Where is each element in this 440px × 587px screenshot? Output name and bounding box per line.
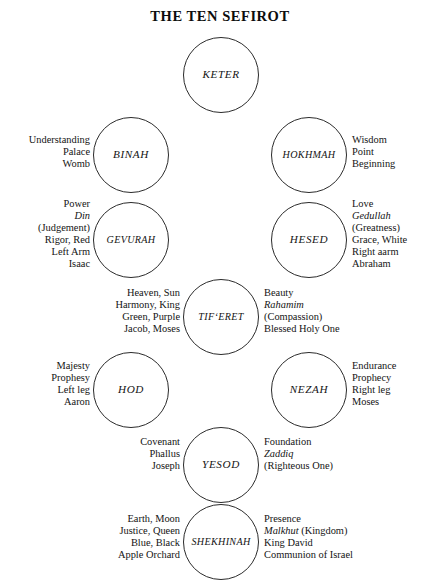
sefirah-hokhmah-label: HOKHMAH <box>283 150 336 160</box>
ten-sefirot-diagram: THE TEN SEFIROT KETER BINAH Understandin… <box>0 0 440 587</box>
sefirah-yesod[interactable]: YESOD <box>183 427 259 503</box>
sefirah-yesod-label: YESOD <box>202 459 240 470</box>
annotation-line: Apple Orchard <box>80 549 180 561</box>
annotation-line: Palace <box>0 146 90 158</box>
annotation-line: Covenant <box>90 436 180 448</box>
annotation-line: Rigor, Red <box>0 234 90 246</box>
annotation-line: Earth, Moon <box>80 513 180 525</box>
annotation-line: Grace, White <box>352 234 440 246</box>
annotation-hod: Majesty Prophesy Left leg Aaron <box>0 360 90 408</box>
annotation-line: (Compassion) <box>264 311 424 323</box>
annotation-line: Left leg <box>0 384 90 396</box>
annotation-line: Isaac <box>0 258 90 270</box>
sefirah-hesed-label: HESED <box>290 234 328 245</box>
annotation-line: King David <box>264 537 434 549</box>
annotation-hokhmah: Wisdom Point Beginning <box>352 134 440 170</box>
page-title: THE TEN SEFIROT <box>0 8 440 25</box>
annotation-gevurah: Power Din (Judgement) Rigor, Red Left Ar… <box>0 198 90 269</box>
annotation-nezah: Endurance Prophecy Right leg Moses <box>352 360 440 408</box>
annotation-line: Point <box>352 146 440 158</box>
sefirah-gevurah[interactable]: GEVURAH <box>93 202 169 278</box>
sefirah-nezah-label: NEZAH <box>290 384 328 395</box>
annotation-line: Prophesy <box>0 372 90 384</box>
annotation-line: Right aarm <box>352 246 440 258</box>
annotation-line: Left Arm <box>0 246 90 258</box>
annotation-line: Jacob, Moses <box>90 323 180 335</box>
sefirah-hesed[interactable]: HESED <box>271 202 347 278</box>
annotation-line: Abraham <box>352 258 440 270</box>
sefirah-hod[interactable]: HOD <box>93 352 169 428</box>
sefirah-hokhmah[interactable]: HOKHMAH <box>271 117 347 193</box>
annotation-line: Beginning <box>352 158 440 170</box>
sefirah-shekhinah-label: SHEKHINAH <box>191 537 250 547</box>
annotation-line: Communion of Israel <box>264 549 434 561</box>
annotation-shekhinah-left: Earth, Moon Justice, Queen Blue, Black A… <box>80 513 180 561</box>
annotation-line: Rahamim <box>264 299 424 311</box>
annotation-tiferet-right: Beauty Rahamim (Compassion) Blessed Holy… <box>264 287 424 335</box>
annotation-line: (Righteous One) <box>264 460 424 472</box>
annotation-line: Beauty <box>264 287 424 299</box>
annotation-line: Understanding <box>0 134 90 146</box>
annotation-binah: Understanding Palace Womb <box>0 134 90 170</box>
annotation-line: Prophecy <box>352 372 440 384</box>
annotation-line: (Judgement) <box>0 222 90 234</box>
sefirah-keter[interactable]: KETER <box>183 37 259 113</box>
sefirah-shekhinah[interactable]: SHEKHINAH <box>183 504 259 580</box>
annotation-line: Gedullah <box>352 210 440 222</box>
annotation-line: Moses <box>352 396 440 408</box>
annotation-line: Wisdom <box>352 134 440 146</box>
sefirah-binah-label: BINAH <box>113 149 149 160</box>
annotation-line: Blessed Holy One <box>264 323 424 335</box>
sefirah-tiferet[interactable]: TIFʻERET <box>183 279 259 355</box>
annotation-line: Majesty <box>0 360 90 372</box>
annotation-line: (Greatness) <box>352 222 440 234</box>
annotation-line: Green, Purple <box>90 311 180 323</box>
annotation-line: Harmony, King <box>90 299 180 311</box>
sefirah-gevurah-label: GEVURAH <box>107 235 156 245</box>
annotation-line: Heaven, Sun <box>90 287 180 299</box>
annotation-shekhinah-right: Presence Malkhut (Kingdom) King David Co… <box>264 513 434 561</box>
annotation-line: Blue, Black <box>80 537 180 549</box>
sefirah-tiferet-label: TIFʻERET <box>198 312 243 322</box>
sefirah-keter-label: KETER <box>202 69 239 80</box>
annotation-line: Joseph <box>90 460 180 472</box>
annotation-line: Foundation <box>264 436 424 448</box>
annotation-yesod-left: Covenant Phallus Joseph <box>90 436 180 472</box>
annotation-line: Presence <box>264 513 434 525</box>
sefirah-binah[interactable]: BINAH <box>93 117 169 193</box>
annotation-line: Aaron <box>0 396 90 408</box>
sefirah-hod-label: HOD <box>118 384 144 395</box>
annotation-line: Right leg <box>352 384 440 396</box>
annotation-line: Phallus <box>90 448 180 460</box>
annotation-line: Endurance <box>352 360 440 372</box>
annotation-line: Zaddiq <box>264 448 424 460</box>
annotation-line: Justice, Queen <box>80 525 180 537</box>
annotation-line: Womb <box>0 158 90 170</box>
annotation-tiferet-left: Heaven, Sun Harmony, King Green, Purple … <box>90 287 180 335</box>
annotation-yesod-right: Foundation Zaddiq (Righteous One) <box>264 436 424 472</box>
annotation-line: Love <box>352 198 440 210</box>
annotation-line: Malkhut (Kingdom) <box>264 525 434 537</box>
annotation-line: Power <box>0 198 90 210</box>
sefirah-nezah[interactable]: NEZAH <box>271 352 347 428</box>
annotation-hesed: Love Gedullah (Greatness) Grace, White R… <box>352 198 440 269</box>
annotation-line: Din <box>0 210 90 222</box>
